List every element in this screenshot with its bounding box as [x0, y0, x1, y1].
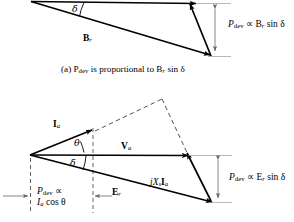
panel-a-top-vector	[31, 2, 196, 4]
panel-a-br-label: Br	[83, 33, 92, 44]
panel-b-delta-label: δ	[70, 158, 76, 169]
panel-b-dimension-bottom-label: Pdev ∝ Ia cos θ	[37, 186, 66, 208]
panel-b-er-label: Er	[112, 187, 121, 198]
panel-a-caption: (a) Pdev is proportional to Br sin δ	[61, 64, 185, 74]
panel-b-ia-label: Ia	[53, 119, 60, 130]
panel-a-delta-label: δ	[72, 4, 78, 15]
panel-b-dimension-right-label: Pdev ∝ Er sin δ	[229, 172, 285, 183]
figure-root: δ Br Pdev ∝ Br sin δ (a) Pdev is proport…	[0, 0, 294, 222]
panel-b-va-phasor	[30, 155, 188, 156]
panel-b-theta-arc	[81, 142, 85, 153]
panel-b-ia-phasor	[30, 130, 92, 155]
panel-b-va-label: Va	[121, 141, 131, 152]
panel-b-dash-ia-extension	[95, 99, 162, 131]
panel-b-jxsia-phasor	[187, 153, 211, 201]
panel-b-dash-to-er-tip	[162, 99, 190, 159]
panel-a-dimension-label: Pdev ∝ Br sin δ	[228, 19, 285, 30]
panel-a-graphics	[31, 2, 231, 57]
panel-b-delta-arc	[83, 156, 86, 170]
panel-b-jxsia-label: jXsIa	[150, 177, 168, 188]
panel-a-br-vector	[31, 2, 210, 56]
panel-a-closing-vector	[190, 4, 211, 56]
panel-b-theta-label: θ	[74, 138, 80, 149]
panel-a-delta-arc	[80, 3, 85, 17]
